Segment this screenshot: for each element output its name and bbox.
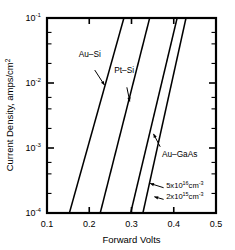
current-density-vs-forward-volts-chart: 0.10.20.30.40.5 10-110-210-310-4 Forward… bbox=[0, 0, 235, 250]
y-tick-exponent: -1 bbox=[35, 11, 41, 18]
y-tick-mantissa: 10 bbox=[25, 78, 35, 88]
x-tick-label: 0.2 bbox=[83, 219, 96, 229]
doping-2e15-unit-exponent: -3 bbox=[199, 191, 204, 197]
x-axis-title: Forward Volts bbox=[102, 234, 160, 245]
y-tick-exponent: -3 bbox=[35, 141, 41, 148]
x-tick-label: 0.5 bbox=[210, 219, 223, 229]
y-tick-mantissa: 10 bbox=[25, 143, 35, 153]
doping-5e16-unit: cm bbox=[189, 181, 199, 190]
doping-5e16-unit-exponent: -3 bbox=[199, 180, 204, 186]
x-tick-label: 0.1 bbox=[41, 219, 54, 229]
y-axis-title: Current Density, amps/cm2 bbox=[4, 58, 15, 171]
annotation-pt-si: Pt–Si bbox=[114, 65, 134, 75]
x-tick-label: 0.3 bbox=[125, 219, 138, 229]
y-axis-title-text: Current Density, amps/cm bbox=[4, 62, 15, 171]
y-tick-mantissa: 10 bbox=[25, 208, 35, 218]
annotation-au-gaas: Au–GaAs bbox=[162, 149, 198, 159]
doping-2e15-unit: cm bbox=[189, 192, 199, 201]
doping-2e15-mantissa: 2x10 bbox=[166, 192, 182, 201]
y-axis-title-superscript: 2 bbox=[4, 58, 11, 62]
y-tick-exponent: -2 bbox=[35, 76, 41, 83]
x-tick-label: 0.4 bbox=[167, 219, 180, 229]
y-tick-exponent: -4 bbox=[35, 206, 41, 213]
doping-5e16-mantissa: 5x10 bbox=[166, 181, 182, 190]
figure-container: 0.10.20.30.40.5 10-110-210-310-4 Forward… bbox=[0, 0, 235, 250]
y-tick-mantissa: 10 bbox=[25, 13, 35, 23]
annotation-au-si: Au–Si bbox=[79, 49, 101, 59]
